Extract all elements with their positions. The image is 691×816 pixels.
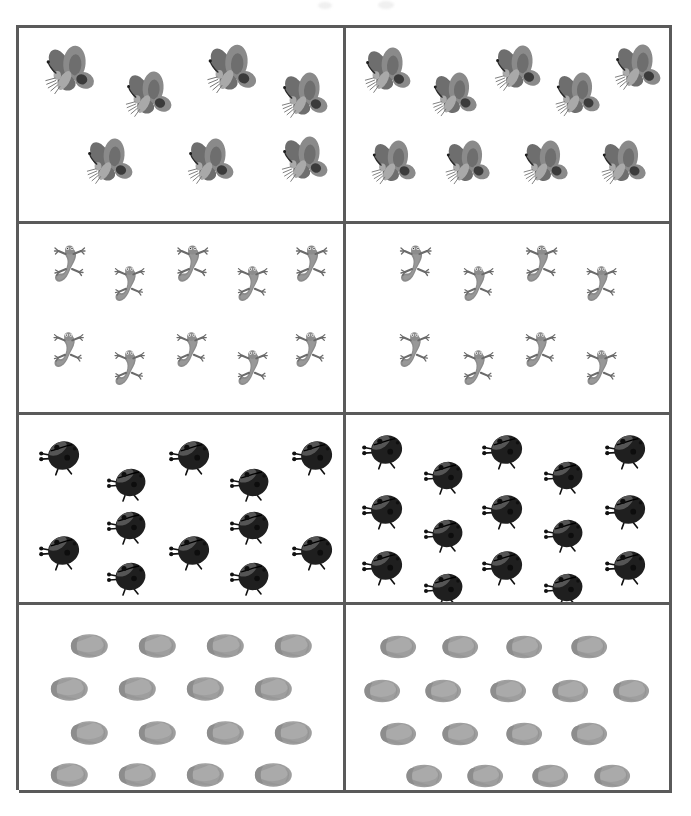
butterfly-icon: [437, 136, 497, 196]
lizard-icon: [165, 326, 213, 374]
lizard-icon: [284, 326, 332, 374]
ladybug-icon: [288, 523, 340, 575]
lizard-icon: [452, 260, 500, 308]
lizard-icon: [575, 344, 623, 392]
panel-row-butterflies: [19, 28, 672, 224]
fish-icon: [455, 749, 509, 790]
ladybug-icon: [226, 550, 276, 600]
ladybug-icon: [420, 561, 470, 602]
lizard-icon: [452, 344, 500, 392]
panel-lizards-left[interactable]: [19, 224, 346, 412]
ladybug-icon: [165, 523, 217, 575]
butterfly-icon: [273, 69, 335, 131]
butterfly-icon: [79, 134, 141, 196]
butterfly-icon: [198, 39, 264, 105]
ladybug-icon: [540, 449, 590, 499]
ladybug-icon: [540, 507, 590, 557]
ladybug-icon: [35, 523, 87, 575]
panel-grid: [16, 25, 672, 790]
ladybug-icon: [358, 422, 410, 474]
butterfly-icon: [515, 136, 575, 196]
ladybug-icon: [601, 482, 653, 534]
butterfly-icon: [273, 132, 335, 194]
lizard-icon: [103, 344, 151, 392]
ladybug-icon: [420, 449, 470, 499]
lizard-icon: [165, 239, 215, 289]
fish-icon: [174, 747, 230, 790]
fish-icon: [38, 747, 94, 790]
lizard-icon: [388, 326, 436, 374]
lizard-icon: [284, 239, 334, 289]
ladybug-icon: [478, 538, 530, 590]
ladybug-icon: [478, 482, 530, 534]
lizard-icon: [226, 260, 274, 308]
butterfly-icon: [179, 134, 241, 196]
fish-icon: [582, 749, 636, 790]
lizard-icon: [514, 239, 564, 289]
panel-row-lizards: [19, 224, 672, 415]
lizard-icon: [42, 326, 90, 374]
butterfly-icon: [486, 41, 548, 103]
butterfly-icon: [606, 40, 668, 102]
lizard-icon: [103, 260, 151, 308]
ladybug-icon: [358, 482, 410, 534]
ladybug-icon: [601, 538, 653, 590]
fish-icon: [106, 747, 162, 790]
panel-lizards-right[interactable]: [346, 224, 673, 412]
ladybug-icon: [35, 428, 87, 480]
ladybug-icon: [420, 507, 470, 557]
scan-artifact-mark: [378, 1, 394, 9]
ladybug-icon: [478, 422, 530, 474]
fish-icon: [242, 747, 298, 790]
lizard-icon: [514, 326, 562, 374]
ladybug-icon: [103, 550, 153, 600]
butterfly-icon: [593, 136, 653, 196]
butterfly-icon: [363, 136, 423, 196]
lizard-icon: [226, 344, 274, 392]
ladybug-icon: [226, 499, 276, 549]
panel-row-fish: [19, 605, 672, 793]
ladybug-icon: [103, 499, 153, 549]
panel-ladybugs-left[interactable]: [19, 415, 346, 602]
butterfly-icon: [117, 67, 179, 129]
butterfly-icon: [36, 41, 102, 107]
ladybug-icon: [165, 428, 217, 480]
lizard-icon: [575, 260, 623, 308]
lizard-icon: [42, 239, 92, 289]
panel-fish-right[interactable]: [346, 605, 673, 790]
scan-artifact-mark: [318, 2, 332, 9]
ladybug-icon: [288, 428, 340, 480]
ladybug-icon: [601, 422, 653, 474]
panel-ladybugs-right[interactable]: [346, 415, 673, 602]
panel-butterflies-right[interactable]: [346, 28, 673, 221]
panel-fish-left[interactable]: [19, 605, 346, 790]
ladybug-icon: [540, 561, 590, 602]
fish-icon: [394, 749, 448, 790]
fish-icon: [520, 749, 574, 790]
lizard-icon: [388, 239, 438, 289]
panel-butterflies-left[interactable]: [19, 28, 346, 221]
panel-row-ladybugs: [19, 415, 672, 605]
butterfly-icon: [424, 69, 484, 129]
worksheet-sheet: [0, 0, 691, 816]
butterfly-icon: [356, 43, 418, 105]
ladybug-icon: [358, 538, 410, 590]
butterfly-icon: [547, 69, 607, 129]
